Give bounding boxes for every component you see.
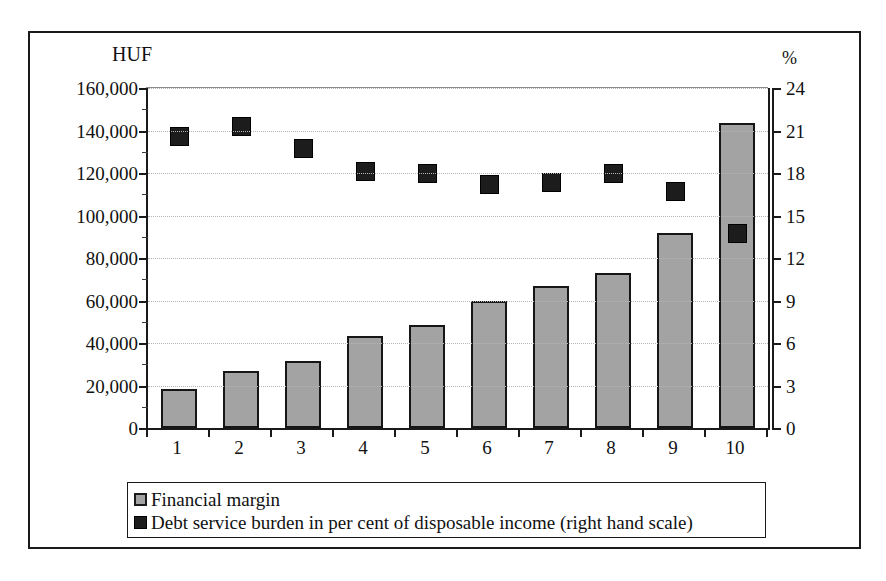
left-axis-tick-label: 140,000 bbox=[18, 121, 138, 140]
left-axis-tick-mark bbox=[139, 173, 148, 175]
x-axis-tick-label: 5 bbox=[400, 438, 450, 457]
left-axis-tick-label: 60,000 bbox=[18, 291, 138, 310]
gridline bbox=[148, 301, 768, 302]
legend-item-financial-margin: Financial margin bbox=[134, 488, 759, 511]
chart-figure: HUF % 160,000140,000120,000100,00080,000… bbox=[0, 0, 886, 581]
right-axis-tick-label: 0 bbox=[786, 419, 830, 438]
x-axis-tick-label: 9 bbox=[648, 438, 698, 457]
left-axis-minor-tick bbox=[142, 109, 148, 110]
right-axis-unit-label: % bbox=[782, 48, 797, 68]
right-axis-tick-mark bbox=[772, 131, 781, 133]
x-axis-tick-label: 1 bbox=[152, 438, 202, 457]
data-point-marker bbox=[542, 173, 561, 192]
legend-label-financial-margin: Financial margin bbox=[151, 489, 280, 510]
left-axis-tick-mark bbox=[139, 258, 148, 260]
x-axis-tick-mark bbox=[456, 428, 458, 437]
right-axis-tick-mark bbox=[772, 343, 781, 345]
x-axis-tick-labels: 12345678910 bbox=[146, 438, 766, 468]
x-axis-tick-mark bbox=[518, 428, 520, 437]
right-axis-tick-mark bbox=[772, 301, 781, 303]
x-axis-tick-mark bbox=[704, 428, 706, 437]
right-axis-tick-labels: 24211815129630 bbox=[786, 88, 846, 428]
x-axis-tick-label: 4 bbox=[338, 438, 388, 457]
right-axis-tick-label: 9 bbox=[786, 291, 830, 310]
left-axis-tick-label: 120,000 bbox=[18, 164, 138, 183]
right-axis-tick-label: 15 bbox=[786, 206, 830, 225]
right-axis-tick-mark bbox=[772, 88, 781, 90]
left-axis-minor-tick bbox=[142, 194, 148, 195]
left-axis-minor-tick bbox=[142, 237, 148, 238]
gridline bbox=[148, 88, 768, 89]
x-axis-tick-label: 7 bbox=[524, 438, 574, 457]
plot-area bbox=[146, 88, 770, 430]
data-point-marker bbox=[232, 117, 251, 136]
left-axis-tick-mark bbox=[139, 88, 148, 90]
x-axis-tick-mark bbox=[394, 428, 396, 437]
black-square-icon bbox=[134, 516, 147, 529]
gridline bbox=[148, 258, 768, 259]
x-axis-tick-mark bbox=[642, 428, 644, 437]
left-axis-tick-label: 160,000 bbox=[18, 79, 138, 98]
right-axis-tick-mark bbox=[772, 258, 781, 260]
legend-label-debt-service-burden: Debt service burden in per cent of dispo… bbox=[151, 512, 693, 533]
gridline bbox=[148, 216, 768, 217]
gray-square-icon bbox=[134, 493, 147, 506]
x-axis-tick-mark bbox=[766, 428, 768, 437]
left-axis-tick-mark bbox=[139, 343, 148, 345]
right-axis-tick-mark bbox=[772, 386, 781, 388]
x-axis-tick-label: 3 bbox=[276, 438, 326, 457]
data-point-marker bbox=[170, 127, 189, 146]
left-axis-tick-labels: 160,000140,000120,000100,00080,00060,000… bbox=[18, 88, 138, 428]
left-axis-tick-mark bbox=[139, 131, 148, 133]
right-axis-tick-mark bbox=[772, 428, 781, 430]
data-point-marker bbox=[356, 162, 375, 181]
right-axis-tick-mark bbox=[772, 173, 781, 175]
chart-legend: Financial margin Debt service burden in … bbox=[127, 482, 766, 538]
data-point-marker bbox=[480, 175, 499, 194]
right-axis-tick-label: 24 bbox=[786, 79, 830, 98]
left-axis-tick-mark bbox=[139, 301, 148, 303]
x-axis-tick-mark bbox=[270, 428, 272, 437]
left-axis-minor-tick bbox=[142, 322, 148, 323]
left-axis-minor-tick bbox=[142, 407, 148, 408]
x-axis-tick-label: 8 bbox=[586, 438, 636, 457]
left-axis-tick-mark bbox=[139, 386, 148, 388]
left-axis-tick-label: 80,000 bbox=[18, 249, 138, 268]
x-axis-tick-mark bbox=[146, 428, 148, 437]
right-axis-tick-label: 3 bbox=[786, 376, 830, 395]
left-axis-minor-tick bbox=[142, 152, 148, 153]
left-axis-tick-label: 100,000 bbox=[18, 206, 138, 225]
gridline bbox=[148, 173, 768, 174]
left-axis-tick-label: 40,000 bbox=[18, 334, 138, 353]
left-axis-tick-label: 0 bbox=[18, 419, 138, 438]
right-axis-tick-label: 21 bbox=[786, 121, 830, 140]
right-axis-tick-mark bbox=[772, 216, 781, 218]
left-axis-tick-label: 20,000 bbox=[18, 376, 138, 395]
x-axis-tick-mark bbox=[332, 428, 334, 437]
gridline bbox=[148, 386, 768, 387]
x-axis-tick-mark bbox=[580, 428, 582, 437]
gridline bbox=[148, 343, 768, 344]
x-axis-tick-label: 6 bbox=[462, 438, 512, 457]
left-axis-minor-tick bbox=[142, 364, 148, 365]
right-axis-tick-label: 18 bbox=[786, 164, 830, 183]
left-axis-tick-mark bbox=[139, 216, 148, 218]
data-point-marker bbox=[666, 182, 685, 201]
right-axis-tick-label: 12 bbox=[786, 249, 830, 268]
right-axis-tick-label: 6 bbox=[786, 334, 830, 353]
gridline bbox=[148, 131, 768, 132]
x-axis-tick-label: 10 bbox=[710, 438, 760, 457]
left-axis-minor-tick bbox=[142, 279, 148, 280]
data-point-marker bbox=[728, 224, 747, 243]
x-axis-tick-mark bbox=[208, 428, 210, 437]
legend-item-debt-service-burden: Debt service burden in per cent of dispo… bbox=[134, 511, 759, 534]
data-point-marker bbox=[294, 139, 313, 158]
x-axis-tick-label: 2 bbox=[214, 438, 264, 457]
left-axis-unit-label: HUF bbox=[112, 44, 152, 64]
